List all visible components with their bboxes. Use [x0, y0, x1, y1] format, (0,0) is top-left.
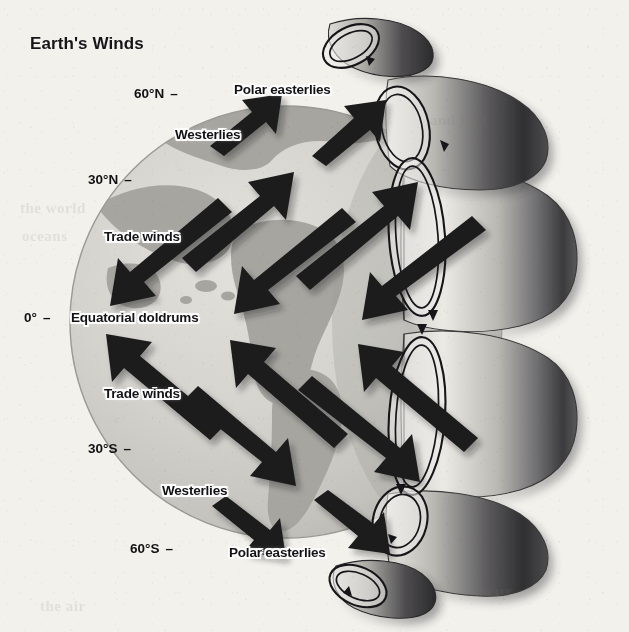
- wind-label-equatorial-doldrums: Equatorial doldrums: [71, 310, 198, 325]
- wind-label-polar-easterlies-north: Polar easterlies: [234, 82, 331, 97]
- wind-label-westerlies-south: Westerlies: [162, 483, 227, 498]
- latitude-text-30n: 30°N: [88, 172, 118, 187]
- latitude-tick-60n: –: [170, 86, 178, 101]
- figure-canvas: and that the world oceans occur the air …: [0, 0, 629, 632]
- wind-label-trade-winds-south: Trade winds: [104, 386, 180, 401]
- page-bleed-3: occur: [470, 582, 513, 602]
- wind-label-westerlies-north: Westerlies: [175, 127, 240, 142]
- wind-label-polar-easterlies-south: Polar easterlies: [229, 545, 326, 560]
- latitude-tick-0: –: [43, 310, 51, 325]
- latitude-label-30s: 30°S–: [88, 441, 131, 456]
- latitude-tick-60s: –: [165, 541, 173, 556]
- latitude-tick-30n: –: [124, 172, 132, 187]
- page-bleed-2: oceans: [22, 228, 68, 245]
- latitude-label-30n: 30°N–: [88, 172, 132, 187]
- page-bleed-4: the air: [40, 598, 86, 615]
- latitude-label-60n: 60°N–: [134, 86, 178, 101]
- latitude-text-0: 0°: [24, 310, 37, 325]
- latitude-label-0: 0°–: [24, 310, 50, 325]
- figure-title: Earth's Winds: [30, 34, 144, 54]
- latitude-label-60s: 60°S–: [130, 541, 173, 556]
- page-bleed-1: the world: [20, 200, 86, 217]
- latitude-text-60s: 60°S: [130, 541, 159, 556]
- latitude-text-30s: 30°S: [88, 441, 117, 456]
- page-bleed-0: and that: [430, 112, 488, 129]
- latitude-text-60n: 60°N: [134, 86, 164, 101]
- wind-label-trade-winds-north: Trade winds: [104, 229, 180, 244]
- latitude-tick-30s: –: [123, 441, 131, 456]
